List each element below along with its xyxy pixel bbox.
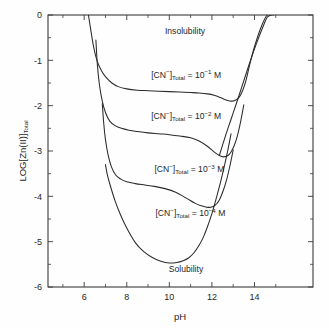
data-curves: [88, 14, 273, 263]
x-axis-tick-labels: 68101214: [82, 292, 260, 302]
curve-[CN-]Total = 10^-4 M: [105, 134, 231, 263]
x-tick-label: 14: [249, 292, 259, 302]
x-tick-label: 12: [207, 292, 217, 302]
series-label: [CN−]Total = 10−4 M: [155, 207, 225, 219]
y-tick-label: 0: [37, 10, 42, 20]
y-tick-label: -3: [34, 146, 42, 156]
series-label: [CN−]Total = 10−3 M: [154, 163, 224, 175]
x-tick-label: 10: [164, 292, 174, 302]
y-axis-label-subscript: Total: [22, 120, 29, 133]
insolubility-annotation: Insolubility: [165, 26, 206, 36]
y-axis-tick-labels: 0-1-2-3-4-5-6: [34, 10, 42, 292]
y-tick-label: -5: [34, 237, 42, 247]
y-tick-label: -4: [34, 192, 42, 202]
x-tick-label: 6: [82, 292, 87, 302]
solubility-diagram: 68101214 0-1-2-3-4-5-6 [CN−]Total = 10−1…: [0, 0, 329, 328]
y-tick-label: -6: [34, 282, 42, 292]
curve-common-rising-branch: [219, 15, 271, 156]
y-axis-label: LOG[Zn(II)]Total: [17, 120, 29, 181]
axis-box: [48, 15, 313, 287]
solubility-annotation: Solubility: [169, 264, 204, 274]
figure-container: 68101214 0-1-2-3-4-5-6 [CN−]Total = 10−1…: [0, 0, 329, 328]
x-tick-label: 8: [124, 292, 129, 302]
x-axis-label: pH: [174, 311, 186, 322]
series-label: [CN−]Total = 10−2 M: [151, 110, 221, 122]
y-tick-label: -2: [34, 101, 42, 111]
y-axis-label-main: LOG[Zn(II)]: [17, 134, 28, 182]
series-label: [CN−]Total = 10−1 M: [151, 68, 221, 80]
x-axis-ticks: [63, 15, 276, 287]
svg-text:LOG[Zn(II)]Total: LOG[Zn(II)]Total: [17, 120, 29, 181]
y-axis-ticks: [48, 15, 313, 287]
y-tick-label: -1: [34, 56, 42, 66]
plot-frame: [48, 15, 313, 287]
